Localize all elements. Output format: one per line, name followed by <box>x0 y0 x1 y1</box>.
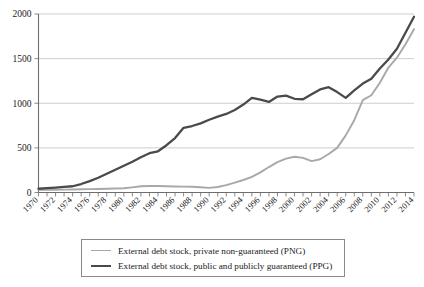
legend-item-ppg: External debt stock, public and publicly… <box>91 258 344 273</box>
x-tick-label: 1982 <box>123 195 142 214</box>
legend-item-png: External debt stock, private non-guarant… <box>91 243 344 258</box>
x-tick-label: 2014 <box>396 194 416 214</box>
y-axis-ticks <box>35 14 39 193</box>
legend-label-ppg: External debt stock, public and publicly… <box>118 261 332 271</box>
x-tick-label: 1996 <box>243 194 263 214</box>
x-tick-label: 1974 <box>55 194 75 214</box>
x-tick-label: 2002 <box>294 195 313 214</box>
x-tick-label: 2012 <box>379 195 398 214</box>
gridlines <box>39 14 415 193</box>
x-tick-label: 2004 <box>311 194 331 214</box>
x-tick-label: 1984 <box>140 194 160 214</box>
x-tick-label: 1978 <box>89 195 108 214</box>
y-axis-labels: 0500100015002000 <box>13 9 32 198</box>
x-tick-label: 1994 <box>226 194 246 214</box>
y-tick-label: 0 <box>27 188 32 198</box>
x-tick-label: 2000 <box>277 195 296 214</box>
x-tick-label: 1986 <box>157 194 177 214</box>
legend-swatch-png <box>91 250 111 251</box>
legend-swatch-ppg <box>91 265 111 267</box>
x-tick-label: 1972 <box>38 195 57 214</box>
x-tick-label: 1998 <box>260 195 279 214</box>
x-tick-label: 1992 <box>208 195 227 214</box>
series-line-ppg <box>39 17 415 189</box>
x-tick-label: 1990 <box>191 195 210 214</box>
x-axis-labels: 1970197219741976197819801982198419861988… <box>21 194 416 214</box>
y-tick-label: 1500 <box>13 54 32 64</box>
line-chart-figure: 1970197219741976197819801982198419861988… <box>0 0 424 287</box>
x-tick-label: 2008 <box>345 195 364 214</box>
chart-page: 1970197219741976197819801982198419861988… <box>0 0 424 287</box>
y-tick-label: 1000 <box>13 99 32 109</box>
x-tick-label: 1988 <box>174 195 193 214</box>
chart-legend: External debt stock, private non-guarant… <box>81 239 345 277</box>
x-tick-label: 2006 <box>328 194 348 214</box>
x-tick-label: 2010 <box>362 195 381 214</box>
series-line-png <box>39 29 415 190</box>
x-tick-label: 1976 <box>72 194 92 214</box>
legend-label-png: External debt stock, private non-guarant… <box>118 246 305 256</box>
y-tick-label: 500 <box>17 143 32 153</box>
x-tick-label: 1980 <box>106 195 125 214</box>
y-tick-label: 2000 <box>13 9 32 19</box>
